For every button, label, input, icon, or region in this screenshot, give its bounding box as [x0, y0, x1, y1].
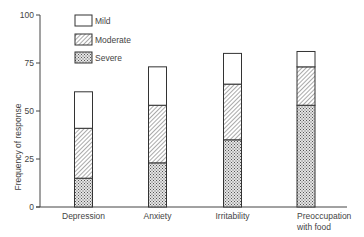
legend-label-severe: Severe [95, 53, 122, 63]
bar-segment-mild [224, 53, 242, 84]
bar-segment-moderate [149, 105, 167, 163]
stacked-bar-chart: 0255075100 DepressionAnxietyIrritability… [0, 0, 364, 237]
legend: MildModerateSevere [75, 15, 131, 63]
bar-segment-severe [149, 163, 167, 207]
bar-segment-mild [297, 51, 315, 66]
legend-swatch-moderate [75, 34, 92, 45]
bar-segment-mild [75, 92, 93, 128]
bar-irritability [224, 53, 242, 207]
bars [75, 51, 316, 207]
bar-segment-mild [149, 67, 167, 105]
bar-anxiety [149, 67, 167, 207]
x-category-label: with food [296, 222, 331, 232]
y-tick-label: 100 [20, 10, 34, 20]
x-category-label: Anxiety [144, 211, 173, 221]
y-tick-label: 25 [25, 154, 35, 164]
legend-swatch-mild [75, 15, 92, 26]
bar-segment-moderate [297, 67, 315, 105]
legend-label-moderate: Moderate [95, 35, 131, 45]
bar-depression [75, 92, 93, 207]
x-category-label: Irritability [215, 211, 250, 221]
legend-swatch-severe [75, 52, 92, 63]
y-tick-label: 0 [29, 202, 34, 212]
legend-label-mild: Mild [95, 16, 111, 26]
x-axis: DepressionAnxietyIrritabilityPreoccupati… [36, 207, 352, 232]
y-tick-label: 50 [25, 106, 35, 116]
bar-segment-severe [297, 105, 315, 207]
bar-segment-severe [75, 178, 93, 207]
bar-preoccupation-with-food [297, 51, 315, 207]
y-axis-title: Frequency of response [13, 103, 23, 190]
y-tick-label: 75 [25, 58, 35, 68]
bar-segment-moderate [75, 128, 93, 178]
x-category-label: Preoccupation [297, 211, 352, 221]
bar-segment-moderate [224, 84, 242, 140]
x-category-label: Depression [62, 211, 105, 221]
bar-segment-severe [224, 140, 242, 207]
